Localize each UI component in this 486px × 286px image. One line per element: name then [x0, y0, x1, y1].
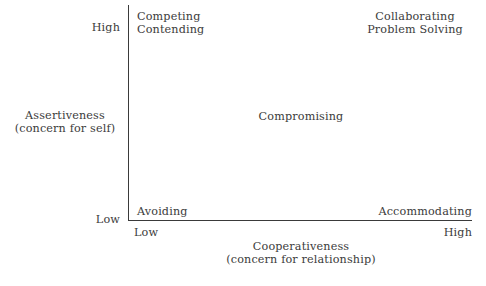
conflict-modes-chart: High Low Low High Assertiveness (concern… [0, 0, 486, 286]
y-axis-title-main: Assertiveness [8, 109, 122, 122]
mode-label-compromising: Compromising [242, 110, 360, 123]
y-axis-line [128, 5, 129, 221]
mode-competing-line2: Contending [137, 23, 257, 36]
mode-collaborating-line2: Problem Solving [357, 23, 473, 36]
x-axis-title-sub: (concern for relationship) [190, 253, 412, 266]
x-axis-title: Cooperativeness (concern for relationshi… [190, 240, 412, 266]
y-axis-title: Assertiveness (concern for self) [8, 109, 122, 135]
mode-label-accommodating: Accommodating [352, 205, 472, 218]
x-axis-line [128, 220, 472, 221]
mode-label-collaborating: Collaborating Problem Solving [357, 10, 473, 36]
y-axis-title-sub: (concern for self) [8, 122, 122, 135]
y-axis-tick-high: High [48, 21, 120, 34]
mode-label-avoiding: Avoiding [137, 205, 247, 218]
mode-competing-line1: Competing [137, 10, 257, 23]
x-axis-tick-low: Low [134, 226, 204, 239]
mode-label-competing: Competing Contending [137, 10, 257, 36]
x-axis-title-main: Cooperativeness [190, 240, 412, 253]
mode-collaborating-line1: Collaborating [357, 10, 473, 23]
y-axis-tick-low: Low [48, 213, 120, 226]
x-axis-tick-high: High [400, 226, 472, 239]
